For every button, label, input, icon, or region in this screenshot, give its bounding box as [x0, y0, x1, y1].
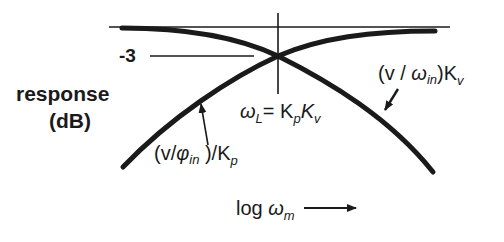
left-curve-label: (v/φin )/Kp: [154, 142, 238, 168]
x-axis-label: log ωm: [236, 197, 295, 223]
minus-3db-label: -3: [119, 45, 136, 66]
y-axis-label-line1: response: [16, 82, 109, 105]
left-label-leader-arrow: [201, 104, 208, 145]
frequency-response-diagram: response (dB) -3 ωL= KpKv (v/φin )/Kp (v…: [0, 0, 504, 242]
right-curve-label: (v / ωin)Kv: [378, 62, 465, 88]
crossover-label: ωL= KpKv: [240, 100, 322, 126]
y-axis-label-line2: (dB): [49, 109, 91, 132]
right-label-leader-arrow: [385, 89, 398, 110]
